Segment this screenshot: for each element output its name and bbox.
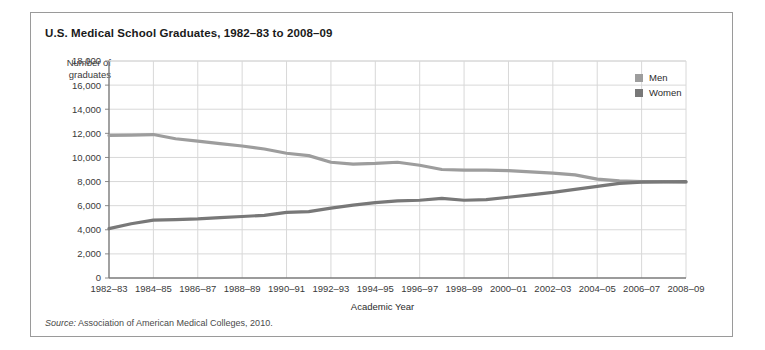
svg-text:2004–05: 2004–05 — [579, 283, 616, 294]
svg-text:1982–83: 1982–83 — [91, 283, 128, 294]
svg-text:14,000: 14,000 — [72, 104, 101, 115]
legend-label-men: Men — [649, 72, 667, 83]
svg-text:18,000: 18,000 — [72, 55, 101, 66]
svg-text:1990–91: 1990–91 — [268, 283, 305, 294]
source-note: Source: Association of American Medical … — [45, 318, 273, 328]
legend-label-women: Women — [649, 87, 682, 98]
svg-text:1986–87: 1986–87 — [179, 283, 216, 294]
source-label: Source: — [45, 318, 76, 328]
svg-text:0: 0 — [96, 272, 101, 283]
vertical-gridlines — [153, 61, 686, 278]
chart-legend: Men Women — [635, 71, 682, 101]
svg-text:2006–07: 2006–07 — [623, 283, 660, 294]
svg-text:1988–89: 1988–89 — [224, 283, 261, 294]
x-axis-title: Academic Year — [31, 301, 734, 312]
svg-text:10,000: 10,000 — [72, 152, 101, 163]
svg-text:2000–01: 2000–01 — [490, 283, 527, 294]
svg-text:6,000: 6,000 — [77, 200, 101, 211]
x-axis-tick-labels: 1982–831984–851986–871988–891990–911992–… — [91, 283, 705, 294]
legend-item-women: Women — [635, 86, 682, 99]
svg-text:1992–93: 1992–93 — [312, 283, 349, 294]
svg-text:2002–03: 2002–03 — [534, 283, 571, 294]
figure-container: U.S. Medical School Graduates, 1982–83 t… — [30, 12, 733, 337]
line-chart-svg: 02,0004,0006,0008,00010,00012,00014,0001… — [31, 13, 734, 338]
legend-item-men: Men — [635, 71, 682, 84]
chart-plot-area: 02,0004,0006,0008,00010,00012,00014,0001… — [31, 13, 734, 338]
y-axis-tick-labels: 02,0004,0006,0008,00010,00012,00014,0001… — [72, 55, 101, 283]
legend-swatch-women — [635, 89, 643, 97]
svg-text:2008–09: 2008–09 — [668, 283, 705, 294]
svg-text:1994–95: 1994–95 — [357, 283, 394, 294]
svg-text:1998–99: 1998–99 — [446, 283, 483, 294]
svg-text:1996–97: 1996–97 — [401, 283, 438, 294]
horizontal-gridlines — [109, 61, 686, 254]
svg-text:1984–85: 1984–85 — [135, 283, 172, 294]
svg-text:16,000: 16,000 — [72, 80, 101, 91]
svg-text:2,000: 2,000 — [77, 248, 101, 259]
svg-text:4,000: 4,000 — [77, 224, 101, 235]
axis-lines — [105, 61, 686, 278]
legend-swatch-men — [635, 74, 643, 82]
svg-text:12,000: 12,000 — [72, 128, 101, 139]
svg-text:8,000: 8,000 — [77, 176, 101, 187]
source-text: Association of American Medical Colleges… — [76, 318, 273, 328]
